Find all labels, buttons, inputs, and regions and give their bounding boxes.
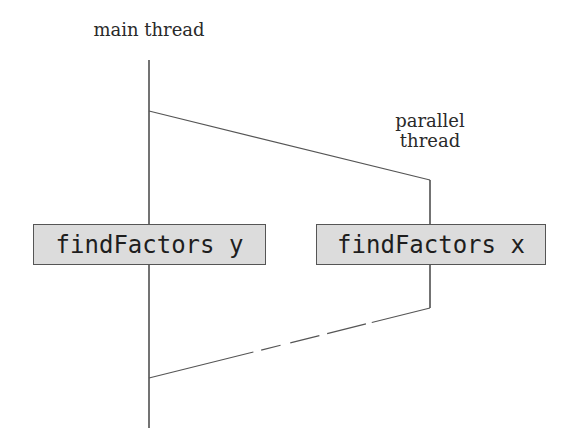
main-thread-label: main thread xyxy=(84,20,214,40)
parallel-thread-label: parallel thread xyxy=(380,111,480,151)
find-factors-y-box: findFactors y xyxy=(33,224,266,265)
find-factors-x-text: findFactors x xyxy=(337,231,525,259)
find-factors-x-box: findFactors x xyxy=(316,224,546,265)
join-line xyxy=(149,308,430,378)
parallel-thread-label-line2: thread xyxy=(380,131,480,151)
parallel-thread-label-line1: parallel xyxy=(380,111,480,131)
find-factors-y-text: findFactors y xyxy=(56,231,244,259)
thread-diagram: main thread parallel thread findFactors … xyxy=(0,0,572,448)
